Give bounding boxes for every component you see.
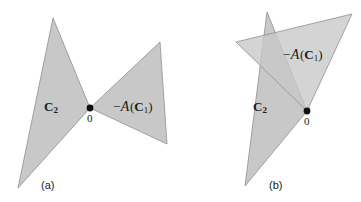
panel-b-label-neg-a-c1: −A(C1): [283, 48, 322, 63]
panel-b-label-c2-subscript: 2: [263, 105, 268, 115]
panel-b-caption: (b): [269, 180, 282, 191]
panel-a-label-neg-a-c1: −A(C1): [113, 100, 152, 115]
panel-a-caption: (a): [41, 180, 54, 191]
panel-b-label-c2: C2: [253, 100, 267, 115]
panel-b-c1-base: C: [304, 47, 313, 62]
panel-a-label-origin: 0: [87, 113, 93, 124]
panel-a-script-a: A: [120, 99, 130, 114]
figure-container: C2 0 −A(C1) (a) C2 0 −A(C1) (b): [0, 0, 361, 202]
panel-a-paren-close: ): [148, 99, 152, 114]
panel-a-label-c2-base: C: [44, 99, 54, 114]
panel-a-c1-base: C: [134, 99, 143, 114]
panel-b-label-c2-base: C: [253, 99, 263, 114]
panel-b-paren-close: ): [318, 47, 322, 62]
panel-b-script-a: A: [290, 47, 300, 62]
panel-a-label-c2-subscript: 2: [54, 105, 59, 115]
panel-b-origin-dot: [304, 108, 311, 115]
panel-a-cone-neg-a-c1: [90, 42, 167, 144]
panel-a-label-c2: C2: [44, 100, 58, 115]
panel-b-label-origin: 0: [304, 116, 310, 127]
panel-a-origin-dot: [87, 105, 94, 112]
